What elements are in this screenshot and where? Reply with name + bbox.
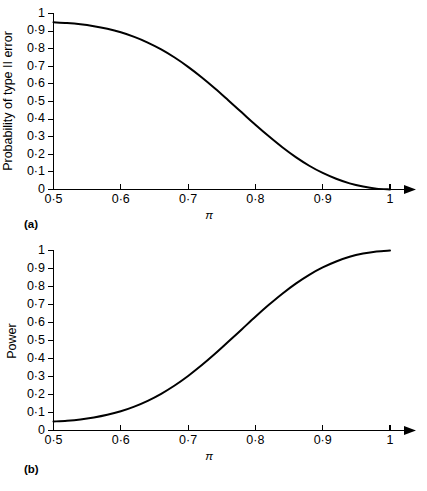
x-tick-label-a-0: 0·5: [44, 192, 62, 206]
x-tick-label-b-0: 0·5: [44, 433, 62, 447]
x-tick-label-a-4: 0·9: [314, 192, 332, 206]
x-tick-label-b-4: 0·9: [314, 433, 332, 447]
y-tick-label-b-6: 0·6: [27, 315, 45, 329]
y-tick-label-b-2: 0·2: [27, 387, 45, 401]
y-tick-label-a-3: 0·3: [27, 129, 45, 143]
x-tick-label-b-5: 1: [387, 433, 394, 447]
x-ticks-a: [54, 184, 391, 190]
y-tick-label-b-4: 0·4: [27, 351, 45, 365]
x-tick-label-b-2: 0·7: [179, 433, 197, 447]
chart-panel-a: 0 0·1 0·2 0·3 0·4 0·5 0·6 0·7 0·8 0·9 1 …: [0, 0, 427, 240]
y-tick-label-b-10: 1: [38, 243, 45, 257]
y-ticks-a: [48, 14, 54, 190]
power-curve: [54, 251, 391, 422]
x-axis-title-b: π: [205, 450, 213, 462]
panel-label-a: (a): [24, 218, 38, 230]
chart-a-svg: 0 0·1 0·2 0·3 0·4 0·5 0·6 0·7 0·8 0·9 1 …: [0, 0, 427, 240]
y-axis-title-b: Power: [5, 323, 19, 358]
y-tick-label-a-9: 0·9: [27, 23, 45, 37]
y-tick-label-a-5: 0·5: [27, 94, 45, 108]
x-axis-title-a: π: [205, 209, 213, 221]
type-ii-error-curve: [54, 22, 391, 189]
y-tick-label-a-4: 0·4: [27, 111, 45, 125]
y-ticks-b: [48, 251, 54, 431]
y-tick-label-b-1: 0·1: [27, 405, 45, 419]
power-and-type-ii-error-figure: 0 0·1 0·2 0·3 0·4 0·5 0·6 0·7 0·8 0·9 1 …: [0, 0, 427, 491]
x-tick-label-a-3: 0·8: [246, 192, 264, 206]
y-tick-label-a-6: 0·6: [27, 76, 45, 90]
chart-b-svg: 0 0·1 0·2 0·3 0·4 0·5 0·6 0·7 0·8 0·9 1 …: [0, 238, 427, 491]
y-tick-label-b-7: 0·7: [27, 297, 45, 311]
x-tick-label-b-3: 0·8: [246, 433, 264, 447]
y-tick-label-b-8: 0·8: [27, 279, 45, 293]
x-ticks-b: [54, 425, 391, 431]
x-tick-label-a-5: 1: [387, 192, 394, 206]
chart-panel-b: 0 0·1 0·2 0·3 0·4 0·5 0·6 0·7 0·8 0·9 1 …: [0, 238, 427, 491]
y-tick-label-a-10: 1: [38, 6, 45, 20]
x-tick-label-a-2: 0·7: [179, 192, 197, 206]
x-axis-arrowhead-b: [404, 426, 416, 435]
x-tick-label-b-1: 0·6: [112, 433, 130, 447]
y-tick-label-b-3: 0·3: [27, 369, 45, 383]
y-axis-title-a: Probability of type II error: [1, 31, 15, 171]
y-tick-label-a-8: 0·8: [27, 41, 45, 55]
panel-label-b: (b): [24, 463, 39, 475]
x-axis-arrowhead-a: [404, 185, 416, 194]
x-tick-label-a-1: 0·6: [112, 192, 130, 206]
y-tick-label-a-7: 0·7: [27, 59, 45, 73]
y-tick-label-a-2: 0·2: [27, 147, 45, 161]
y-tick-label-a-1: 0·1: [27, 164, 45, 178]
y-tick-label-b-5: 0·5: [27, 333, 45, 347]
y-tick-label-b-9: 0·9: [27, 261, 45, 275]
